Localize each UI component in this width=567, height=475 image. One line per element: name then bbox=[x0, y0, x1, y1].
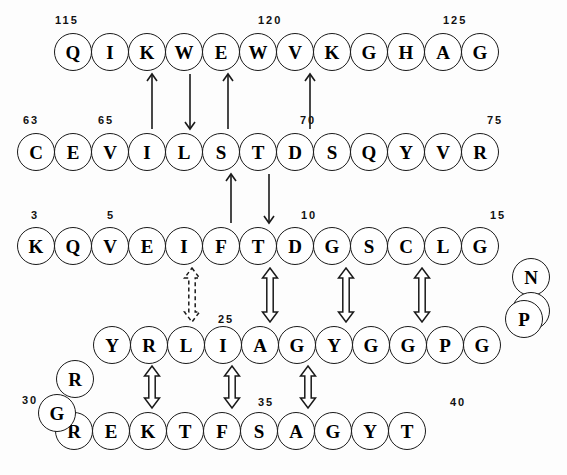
hbond-arrow-6 bbox=[255, 174, 283, 223]
residue-1-7-v: V bbox=[276, 33, 314, 71]
residue-3-7-t: T bbox=[239, 227, 277, 265]
residue-3-2-q: Q bbox=[54, 227, 92, 265]
position-label-35: 35 bbox=[258, 396, 274, 408]
residue-2-6-s: S bbox=[202, 133, 240, 171]
residue-4-7-y: Y bbox=[315, 326, 353, 364]
residue-1-4-w: W bbox=[165, 33, 203, 71]
residue-5-7-a: A bbox=[277, 412, 315, 450]
position-label-40: 40 bbox=[450, 396, 466, 408]
position-label-115: 115 bbox=[55, 14, 79, 26]
residue-3-11-c: C bbox=[387, 227, 425, 265]
residue-2-13-r: R bbox=[461, 133, 499, 171]
position-label-125: 125 bbox=[443, 14, 467, 26]
hbond-arrow-1 bbox=[138, 74, 166, 129]
hbond-arrow-10 bbox=[408, 268, 436, 322]
position-label-63: 63 bbox=[23, 114, 39, 126]
residue-3-1-k: K bbox=[17, 227, 55, 265]
residue-3-5-i: I bbox=[165, 227, 203, 265]
residue-4-5-a: A bbox=[241, 326, 279, 364]
residue-2-5-l: L bbox=[165, 133, 203, 171]
hbond-arrow-9 bbox=[332, 268, 360, 322]
residue-5-5-f: F bbox=[203, 412, 241, 450]
residue-offset-offset-r-left: R bbox=[56, 360, 94, 398]
hbond-arrow-12 bbox=[218, 366, 246, 408]
residue-4-1-y: Y bbox=[93, 326, 131, 364]
residue-3-10-s: S bbox=[350, 227, 388, 265]
residue-4-8-g: G bbox=[352, 326, 390, 364]
residue-offset-offset-n: N bbox=[512, 258, 550, 296]
residue-1-9-g: G bbox=[350, 33, 388, 71]
residue-1-8-k: K bbox=[313, 33, 351, 71]
residue-3-12-l: L bbox=[424, 227, 462, 265]
hbond-arrow-8 bbox=[256, 268, 284, 322]
position-label-3: 3 bbox=[31, 209, 39, 221]
residue-1-12-g: G bbox=[461, 33, 499, 71]
residue-2-9-s: S bbox=[313, 133, 351, 171]
residue-4-4-i: I bbox=[204, 326, 242, 364]
residue-3-3-v: V bbox=[91, 227, 129, 265]
residue-3-13-g: G bbox=[461, 227, 499, 265]
residue-1-6-w: W bbox=[239, 33, 277, 71]
residue-5-10-t: T bbox=[388, 412, 426, 450]
hbond-arrow-3 bbox=[214, 74, 242, 129]
residue-4-10-p: P bbox=[426, 326, 464, 364]
residue-2-3-v: V bbox=[91, 133, 129, 171]
residue-2-2-e: E bbox=[54, 133, 92, 171]
residue-2-1-c: C bbox=[17, 133, 55, 171]
residue-3-4-e: E bbox=[128, 227, 166, 265]
residue-1-5-e: E bbox=[202, 33, 240, 71]
residue-1-2-i: I bbox=[91, 33, 129, 71]
residue-3-8-d: D bbox=[276, 227, 314, 265]
position-label-15: 15 bbox=[490, 209, 506, 221]
residue-2-7-t: T bbox=[239, 133, 277, 171]
residue-4-2-r: R bbox=[130, 326, 168, 364]
residue-1-11-a: A bbox=[424, 33, 462, 71]
residue-1-3-k: K bbox=[128, 33, 166, 71]
residue-5-8-g: G bbox=[314, 412, 352, 450]
hbond-arrow-5 bbox=[217, 174, 245, 223]
residue-3-9-g: G bbox=[313, 227, 351, 265]
sequence-diagram: QIKWEWVKGHAGCEVILSTDSQYVRKQVEIFTDGSCLGYR… bbox=[0, 0, 567, 475]
position-label-75: 75 bbox=[487, 114, 503, 126]
position-label-30: 30 bbox=[22, 394, 38, 406]
position-label-65: 65 bbox=[98, 114, 114, 126]
residue-4-6-g: G bbox=[278, 326, 316, 364]
residue-4-9-g: G bbox=[389, 326, 427, 364]
residue-2-12-v: V bbox=[424, 133, 462, 171]
residue-2-11-y: Y bbox=[387, 133, 425, 171]
position-label-120: 120 bbox=[258, 14, 282, 26]
residue-1-1-q: Q bbox=[54, 33, 92, 71]
hbond-arrow-7 bbox=[178, 268, 206, 322]
hbond-arrow-2 bbox=[176, 74, 204, 129]
residue-2-8-d: D bbox=[276, 133, 314, 171]
residue-1-10-h: H bbox=[387, 33, 425, 71]
hbond-arrow-13 bbox=[294, 366, 322, 408]
residue-4-11-g: G bbox=[463, 326, 501, 364]
residue-offset-offset-p-row4: P bbox=[505, 300, 543, 338]
residue-5-9-y: Y bbox=[351, 412, 389, 450]
residue-2-10-q: Q bbox=[350, 133, 388, 171]
residue-5-6-s: S bbox=[240, 412, 278, 450]
residue-5-2-e: E bbox=[92, 412, 130, 450]
residue-offset-offset-g-left: G bbox=[38, 394, 76, 432]
residue-4-3-l: L bbox=[167, 326, 205, 364]
hbond-arrow-4 bbox=[296, 74, 324, 129]
residue-5-4-t: T bbox=[166, 412, 204, 450]
residue-2-4-i: I bbox=[128, 133, 166, 171]
hbond-arrow-11 bbox=[138, 366, 166, 408]
residue-5-3-k: K bbox=[129, 412, 167, 450]
residue-3-6-f: F bbox=[202, 227, 240, 265]
position-label-25: 25 bbox=[218, 313, 234, 325]
position-label-5: 5 bbox=[107, 209, 115, 221]
position-label-10: 10 bbox=[301, 209, 317, 221]
